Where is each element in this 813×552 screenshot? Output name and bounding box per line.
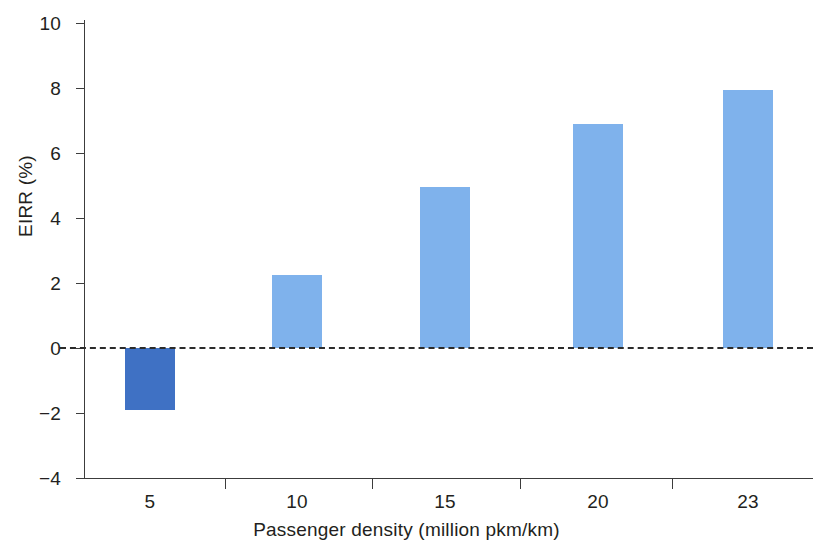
x-axis-tick-label: 23: [718, 492, 778, 511]
y-axis-tick-label: −4: [1, 469, 61, 488]
x-axis-tick-label: 5: [120, 492, 180, 511]
y-axis-tick: [76, 23, 85, 24]
y-axis-tick-label: −2: [1, 404, 61, 423]
x-axis-tick: [372, 479, 373, 489]
y-axis-tick-label: 6: [1, 144, 61, 163]
x-axis-tick: [225, 479, 226, 489]
bar: [723, 90, 773, 348]
bar-chart: EIRR (%) 1086420−2−4 510152023 Passenger…: [0, 0, 813, 552]
x-axis-tick-label: 10: [267, 492, 327, 511]
y-axis-tick-label: 0: [1, 339, 61, 358]
y-axis-tick: [76, 218, 85, 219]
bar: [125, 348, 175, 410]
y-axis-tick: [76, 283, 85, 284]
y-axis-tick: [76, 88, 85, 89]
zero-reference-line: [60, 347, 813, 349]
bar: [573, 124, 623, 348]
y-axis-tick: [76, 413, 85, 414]
x-axis-line: [84, 478, 813, 479]
y-axis-tick: [76, 153, 85, 154]
x-axis-tick-label: 15: [415, 492, 475, 511]
y-axis-tick-label: 8: [1, 79, 61, 98]
y-axis-tick-label: 4: [1, 209, 61, 228]
y-axis-tick-label: 2: [1, 274, 61, 293]
y-axis-tick-label: 10: [1, 14, 61, 33]
x-axis-tick: [520, 479, 521, 489]
x-axis-tick-label: 20: [568, 492, 628, 511]
x-axis-title: Passenger density (million pkm/km): [0, 519, 813, 541]
bar: [420, 187, 470, 348]
bar: [272, 275, 322, 348]
x-axis-tick: [672, 479, 673, 489]
y-axis-tick: [76, 478, 85, 479]
